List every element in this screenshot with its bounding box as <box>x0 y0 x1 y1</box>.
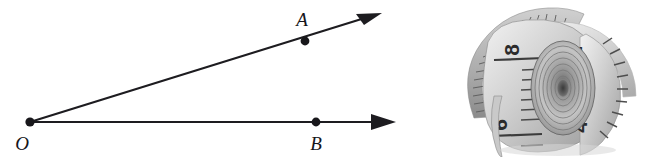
point-label-A: A <box>294 9 308 30</box>
ray-OB-arrowhead-icon <box>371 114 396 130</box>
ray-OA-arrowhead-icon <box>356 13 382 25</box>
tape-coil-center-hole <box>557 79 569 97</box>
tape-measure-canvas: 8 6 2 4 <box>440 0 651 157</box>
vertex-point-O-dot <box>25 117 34 126</box>
ray-OA <box>30 13 382 122</box>
tape-measure-photo: 8 6 2 4 <box>440 0 651 157</box>
tape-drop-shadow <box>500 144 616 156</box>
screenshot-root: O A B <box>0 0 651 157</box>
point-B-dot <box>312 118 321 127</box>
angle-diagram-canvas: O A B <box>0 0 440 157</box>
point-A-dot <box>301 37 310 46</box>
point-label-B: B <box>310 133 322 154</box>
tape-number-8: 8 <box>500 44 523 56</box>
vertex-label-O: O <box>15 133 29 154</box>
tape-coil <box>531 41 595 135</box>
angle-diagram: O A B <box>0 0 440 157</box>
ray-OB <box>30 114 396 130</box>
ray-OA-line <box>30 17 368 122</box>
